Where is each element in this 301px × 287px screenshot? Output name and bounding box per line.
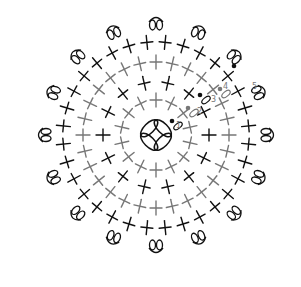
round-label: 2 — [197, 107, 202, 116]
single-crochet-icon — [104, 44, 121, 62]
single-crochet-icon — [77, 111, 93, 126]
single-crochet-icon — [204, 171, 222, 189]
single-crochet-icon — [121, 38, 137, 55]
picot-shell-icon — [149, 240, 163, 253]
single-crochet-icon — [99, 150, 117, 167]
single-crochet-icon — [150, 201, 162, 215]
single-crochet-icon — [219, 185, 237, 203]
single-crochet-icon — [213, 158, 231, 175]
single-crochet-icon — [160, 75, 175, 91]
start-dot-icon — [186, 106, 191, 111]
single-crochet-icon — [180, 167, 198, 185]
single-crochet-icon — [195, 150, 213, 167]
single-crochet-icon — [96, 129, 110, 141]
single-crochet-icon — [101, 69, 119, 87]
single-crochet-icon — [137, 75, 152, 91]
single-crochet-icon — [132, 158, 149, 176]
single-crochet-icon — [229, 170, 247, 187]
single-crochet-icon — [158, 220, 171, 235]
single-crochet-icon — [132, 95, 149, 113]
single-crochet-icon — [158, 35, 171, 50]
round-1 — [114, 93, 199, 177]
stitch-rounds — [39, 18, 274, 253]
single-crochet-icon — [175, 38, 191, 55]
single-crochet-icon — [121, 216, 137, 233]
crochet-chart: 12345 — [0, 0, 301, 287]
single-crochet-icon — [99, 104, 117, 121]
picot-shell-icon — [105, 24, 123, 41]
single-crochet-icon — [116, 60, 133, 78]
picot-shell-icon — [149, 18, 163, 31]
single-crochet-icon — [237, 154, 254, 170]
single-crochet-icon — [119, 104, 137, 122]
picot-shell-icon — [45, 84, 62, 102]
single-crochet-icon — [77, 144, 93, 159]
picot-shell-icon — [190, 24, 208, 41]
picot-shell-icon — [68, 47, 87, 66]
single-crochet-icon — [191, 208, 208, 226]
single-crochet-icon — [140, 220, 153, 235]
single-crochet-icon — [179, 60, 196, 78]
single-crochet-icon — [114, 120, 130, 135]
picot-shell-icon — [39, 128, 52, 142]
single-crochet-icon — [222, 129, 236, 141]
single-crochet-icon — [192, 69, 210, 87]
single-crochet-icon — [56, 119, 71, 132]
single-crochet-icon — [114, 84, 132, 102]
start-dot-icon — [170, 119, 175, 124]
single-crochet-icon — [90, 171, 108, 189]
single-crochet-icon — [150, 93, 162, 107]
magic-ring-center — [138, 117, 174, 153]
single-crochet-icon — [165, 198, 180, 214]
single-crochet-icon — [114, 135, 130, 150]
single-crochet-icon — [132, 198, 147, 214]
single-crochet-icon — [65, 83, 83, 100]
single-crochet-icon — [180, 84, 198, 102]
single-crochet-icon — [165, 56, 180, 72]
single-crochet-icon — [229, 83, 247, 100]
round-label: 3 — [211, 95, 216, 104]
start-dot-icon — [218, 87, 223, 92]
single-crochet-icon — [219, 144, 235, 159]
single-crochet-icon — [137, 179, 152, 195]
start-dot-icon — [232, 64, 237, 69]
single-crochet-icon — [88, 54, 106, 72]
single-crochet-icon — [150, 163, 162, 177]
single-crochet-icon — [101, 183, 119, 201]
chain-stitch-icon — [201, 95, 212, 105]
picot-shell-icon — [68, 204, 87, 223]
single-crochet-icon — [174, 148, 192, 166]
single-crochet-icon — [206, 198, 224, 216]
round-label: 4 — [223, 82, 228, 91]
single-crochet-icon — [116, 192, 133, 210]
round-label: 1 — [176, 121, 181, 130]
picot-shell-icon — [261, 128, 274, 142]
single-crochet-icon — [104, 208, 121, 226]
single-crochet-icon — [132, 56, 147, 72]
single-crochet-icon — [192, 183, 210, 201]
single-crochet-icon — [179, 192, 196, 210]
single-crochet-icon — [219, 111, 235, 126]
single-crochet-icon — [56, 137, 71, 150]
single-crochet-icon — [182, 120, 198, 135]
round-5 — [39, 18, 274, 253]
single-crochet-icon — [88, 198, 106, 216]
single-crochet-icon — [241, 119, 256, 132]
picot-shell-icon — [225, 47, 244, 66]
single-crochet-icon — [59, 154, 76, 170]
single-crochet-icon — [182, 135, 198, 150]
single-crochet-icon — [76, 129, 90, 141]
single-crochet-icon — [175, 216, 191, 233]
single-crochet-icon — [90, 80, 108, 98]
round-label: 5 — [252, 82, 257, 91]
single-crochet-icon — [241, 137, 256, 150]
single-crochet-icon — [237, 100, 254, 116]
single-crochet-icon — [119, 148, 137, 166]
single-crochet-icon — [163, 95, 180, 113]
single-crochet-icon — [140, 35, 153, 50]
single-crochet-icon — [65, 170, 83, 187]
single-crochet-icon — [150, 55, 162, 69]
single-crochet-icon — [81, 95, 99, 112]
single-crochet-icon — [206, 54, 224, 72]
single-crochet-icon — [160, 179, 175, 195]
